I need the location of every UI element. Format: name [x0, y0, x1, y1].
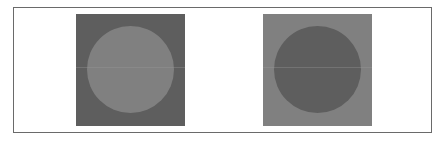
left-midline: [76, 67, 185, 68]
right-midline: [263, 67, 372, 68]
left-gray-square: [76, 14, 185, 126]
right-circle: [274, 26, 361, 113]
left-circle: [87, 26, 174, 113]
right-gray-square: [263, 14, 372, 126]
